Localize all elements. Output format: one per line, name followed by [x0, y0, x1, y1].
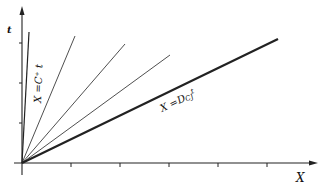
axes	[14, 6, 318, 175]
svg-text:X =DCJt: X =DCJt	[157, 87, 198, 115]
c-plus-line	[22, 32, 29, 163]
dcj-line	[22, 39, 278, 163]
dcj-label: X =DCJt	[157, 87, 198, 115]
x-axis-label: X	[295, 171, 305, 185]
rays	[22, 32, 278, 163]
characteristics-diagram: t X X =C⁺ t X =DCJt	[0, 0, 325, 191]
t-axis-arrow-icon	[20, 6, 25, 15]
c-plus-label: X =C⁺ t	[32, 63, 44, 104]
t-axis-label: t	[7, 24, 12, 35]
x-axis-arrow-icon	[309, 161, 318, 166]
